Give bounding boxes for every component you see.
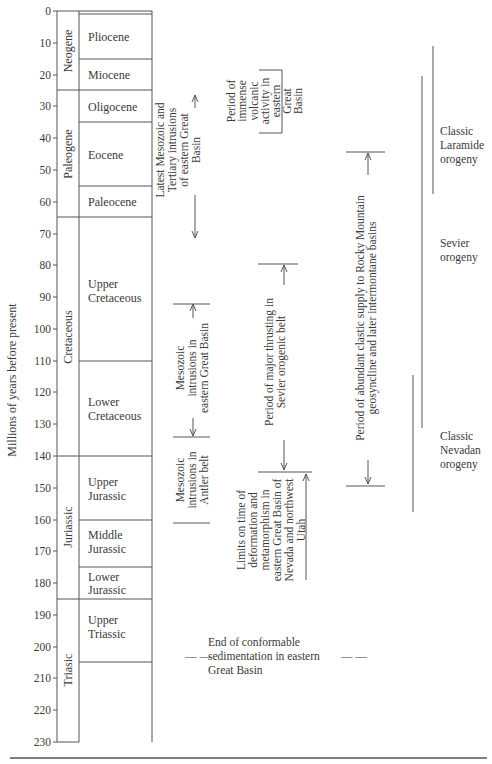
epoch-upper-cretaceous: Upper — [88, 277, 118, 291]
tick-label: 130 — [34, 418, 52, 430]
svg-text:sedimentation in eastern: sedimentation in eastern — [208, 650, 320, 662]
tick-label: 190 — [34, 609, 52, 621]
epoch-middle-jurassic: Middle — [88, 528, 123, 542]
epoch-miocene: Miocene — [88, 68, 130, 82]
svg-text:orogeny: orogeny — [440, 251, 478, 264]
tick-label: 140 — [34, 450, 52, 462]
event-mesozoic-intrusions-great-basin: Mesozoic intrusions in eastern Great Bas… — [174, 323, 210, 413]
period-cretaceous: Cretaceous — [61, 310, 75, 364]
y-ticks — [53, 11, 57, 742]
svg-text:Mesozoic: Mesozoic — [174, 346, 186, 391]
svg-text:deformation and: deformation and — [247, 492, 259, 568]
svg-text:Utah: Utah — [295, 519, 307, 542]
orogeny-sevier: Sevier orogeny — [440, 237, 478, 264]
epoch-lower-cretaceous-2: Cretaceous — [88, 409, 142, 423]
svg-text:intrusions in: intrusions in — [186, 339, 198, 396]
epoch-pliocene: Pliocene — [88, 30, 129, 44]
tick-label: 0 — [45, 5, 51, 17]
tick-label: 120 — [34, 386, 52, 398]
tick-label: 200 — [34, 641, 52, 653]
period-neogene: Neogene — [61, 30, 75, 73]
tick-label: 150 — [34, 482, 52, 494]
svg-text:Limits on time of: Limits on time of — [235, 490, 247, 570]
svg-text:Mesozoic: Mesozoic — [174, 458, 186, 503]
event-end-conformable-sedimentation: End of conformable — — sedimentation in … — [184, 636, 367, 676]
epoch-middle-jurassic-2: Jurassic — [88, 542, 126, 556]
epoch-oligocene: Oligocene — [88, 100, 137, 114]
svg-text:Nevadan: Nevadan — [440, 444, 481, 456]
svg-text:Great Basin: Great Basin — [208, 664, 263, 676]
svg-text:End of conformable: End of conformable — [208, 636, 300, 648]
svg-text:Sevier: Sevier — [440, 237, 470, 249]
tick-label: 20 — [40, 69, 52, 81]
event-volcanic-activity: Period of immense volcanic activity in e… — [225, 78, 304, 125]
svg-text:immense: immense — [236, 80, 248, 122]
tick-label: 70 — [40, 228, 52, 240]
tick-label: 170 — [34, 545, 52, 557]
epoch-lower-cretaceous: Lower — [88, 395, 119, 409]
event-mesozoic-intrusions-antler-belt: Mesozoic intrusions in Antler belt — [174, 451, 210, 508]
epoch-lower-jurassic: Lower — [88, 570, 119, 584]
tick-label: 60 — [40, 196, 52, 208]
period-jurassic: Juriassic — [61, 506, 75, 547]
tick-label: 30 — [40, 100, 52, 112]
period-triassic: Triasic — [61, 654, 75, 687]
orogeny-nevadan: Classic Nevadan orogeny — [440, 430, 481, 471]
epoch-paleocene: Paleocene — [88, 195, 137, 209]
tick-label: 80 — [40, 259, 52, 271]
svg-text:orogeny: orogeny — [440, 458, 478, 471]
epoch-upper-jurassic: Upper — [88, 475, 118, 489]
svg-text:of eastern Great: of eastern Great — [178, 112, 190, 186]
tick-label: 110 — [34, 355, 51, 367]
svg-text:Laramide: Laramide — [440, 139, 484, 151]
tick-label: 220 — [34, 704, 52, 716]
svg-text:geosyncline and later intermon: geosyncline and later intermontane basin… — [366, 221, 379, 414]
svg-text:Latest Mesozoic and: Latest Mesozoic and — [154, 102, 166, 197]
tick-label: 10 — [40, 37, 52, 49]
epoch-eocene: Eocene — [88, 148, 123, 162]
orogeny-laramide: Classic Laramide orogeny — [440, 125, 484, 166]
epoch-upper-jurassic-2: Jurassic — [88, 489, 126, 503]
svg-text:orogeny: orogeny — [440, 153, 478, 166]
tick-label: 180 — [34, 577, 52, 589]
svg-text:Antler belt: Antler belt — [198, 454, 210, 504]
svg-text:eastern Great Basin: eastern Great Basin — [198, 323, 210, 413]
event-latest-mesozoic-intrusions: Latest Mesozoic and Tertiary intrusions … — [154, 102, 202, 197]
period-paleogene: Paleogene — [61, 129, 75, 178]
svg-text:Classic: Classic — [440, 430, 473, 442]
tick-label: 160 — [34, 514, 52, 526]
epoch-upper-cretaceous-2: Cretaceous — [88, 291, 142, 305]
tick-label: 230 — [34, 736, 52, 748]
svg-text:eastern Great Basin of: eastern Great Basin of — [271, 479, 283, 582]
tick-label: 210 — [34, 672, 52, 684]
event-sevier-thrusting: Period of major thrusting in Sevier orog… — [263, 298, 288, 426]
epoch-upper-triassic-2: Triassic — [88, 627, 126, 641]
geologic-time-chart: 0 10 20 30 40 50 60 70 80 90 100 110 120… — [0, 0, 492, 764]
tick-label: 40 — [40, 132, 52, 144]
svg-text:Nevada and northwest: Nevada and northwest — [283, 478, 295, 582]
svg-text:Classic: Classic — [440, 125, 473, 137]
svg-text:Basin: Basin — [292, 88, 304, 114]
svg-text:intrusions in: intrusions in — [186, 451, 198, 508]
event-clastic-supply: Period of abundant clastic supply to Roc… — [354, 195, 379, 441]
epoch-upper-triassic: Upper — [88, 613, 118, 627]
svg-text:Sevier orogenic belt: Sevier orogenic belt — [275, 315, 288, 408]
epoch-lower-jurassic-2: Jurassic — [88, 583, 126, 597]
tick-label: 50 — [40, 164, 52, 176]
y-axis-label: Millions of years before present — [5, 303, 19, 457]
tick-label: 90 — [40, 291, 52, 303]
event-deformation-limits: Limits on time of deformation and metamo… — [235, 478, 307, 582]
svg-text:Basin: Basin — [190, 137, 202, 163]
dash-right: — — — [340, 650, 367, 662]
tick-label: 100 — [34, 323, 52, 335]
